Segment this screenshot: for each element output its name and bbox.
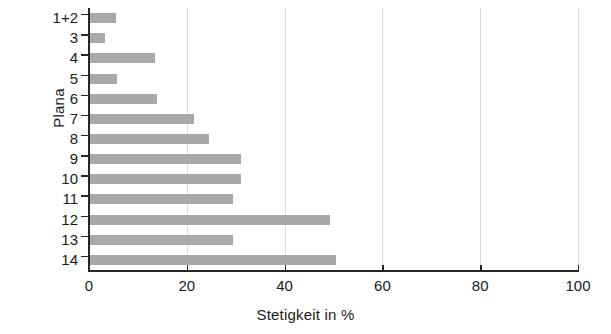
bar <box>89 114 194 124</box>
x-tick-mark <box>187 265 188 272</box>
gridline <box>382 8 383 270</box>
bar <box>89 255 336 265</box>
bar <box>89 174 241 184</box>
y-tick-label: 4 <box>2 50 78 65</box>
bar <box>89 194 233 204</box>
y-tick-label: 11 <box>2 191 78 206</box>
y-tick-label: 8 <box>2 131 78 146</box>
y-tick-label: 5 <box>2 71 78 86</box>
x-tick-mark <box>89 265 90 272</box>
y-tick-label: 6 <box>2 91 78 106</box>
y-tick-label: 12 <box>2 212 78 227</box>
bar <box>89 215 330 225</box>
x-axis-title: Stetigkeit in % <box>0 306 611 323</box>
y-axis-line <box>88 8 90 271</box>
y-tick-label: 1+2 <box>2 10 78 25</box>
y-tick-mark <box>81 175 89 176</box>
bar <box>89 134 209 144</box>
y-tick-mark <box>81 135 89 136</box>
plot-area <box>89 8 578 270</box>
y-tick-label: 10 <box>2 171 78 186</box>
y-tick-mark <box>81 236 89 237</box>
y-tick-label: 14 <box>2 252 78 267</box>
y-tick-mark <box>81 34 89 35</box>
y-tick-mark <box>81 195 89 196</box>
bar <box>89 13 116 23</box>
bar <box>89 235 233 245</box>
bar <box>89 74 117 84</box>
y-tick-mark <box>81 95 89 96</box>
y-tick-label: 7 <box>2 111 78 126</box>
x-tick-label: 20 <box>157 277 217 294</box>
y-tick-label: 9 <box>2 151 78 166</box>
x-tick-label: 0 <box>59 277 119 294</box>
y-tick-mark <box>81 14 89 15</box>
bar <box>89 154 241 164</box>
bar <box>89 33 105 43</box>
x-tick-label: 60 <box>352 277 412 294</box>
x-tick-mark <box>578 265 579 272</box>
bar <box>89 94 157 104</box>
y-tick-label: 13 <box>2 232 78 247</box>
x-axis-line <box>88 270 579 272</box>
x-tick-label: 100 <box>548 277 608 294</box>
x-tick-mark <box>480 265 481 272</box>
y-tick-mark <box>81 155 89 156</box>
y-tick-mark <box>81 256 89 257</box>
y-tick-label: 3 <box>2 30 78 45</box>
x-tick-mark <box>285 265 286 272</box>
bar <box>89 53 155 63</box>
y-tick-mark <box>81 115 89 116</box>
gridline <box>480 8 481 270</box>
gridline <box>578 8 579 270</box>
x-tick-label: 40 <box>255 277 315 294</box>
x-tick-mark <box>382 265 383 272</box>
y-tick-mark <box>81 75 89 76</box>
bar-chart: Plana 1+234567891011121314 020406080100 … <box>0 0 611 334</box>
x-tick-label: 80 <box>450 277 510 294</box>
y-tick-mark <box>81 216 89 217</box>
y-tick-mark <box>81 54 89 55</box>
gridline <box>285 8 286 270</box>
